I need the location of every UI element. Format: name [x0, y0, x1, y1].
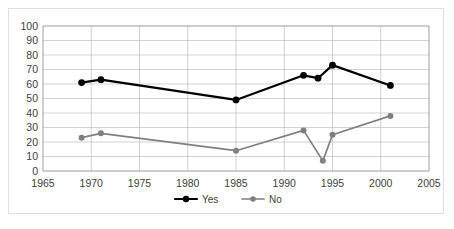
y-tick-label: 0 — [32, 165, 38, 177]
data-point-yes[interactable] — [98, 76, 105, 83]
x-tick-label: 1965 — [31, 177, 55, 189]
data-point-no[interactable] — [301, 127, 307, 133]
legend-label-yes[interactable]: Yes — [202, 194, 218, 205]
legend-marker-dot-no — [250, 196, 256, 202]
line-chart-plot: 0102030405060708090100196519701975198019… — [9, 9, 443, 213]
legend-label-no[interactable]: No — [269, 194, 282, 205]
data-point-no[interactable] — [320, 158, 326, 164]
data-point-yes[interactable] — [315, 75, 322, 82]
x-tick-label: 2005 — [417, 177, 441, 189]
x-tick-label: 1980 — [176, 177, 200, 189]
y-tick-label: 90 — [26, 34, 38, 46]
x-tick-label: 1975 — [128, 177, 152, 189]
data-point-yes[interactable] — [233, 97, 240, 104]
data-point-no[interactable] — [330, 132, 336, 138]
x-tick-label: 2000 — [369, 177, 393, 189]
y-tick-label: 60 — [26, 78, 38, 90]
y-tick-label: 100 — [20, 20, 38, 32]
x-tick-label: 1990 — [273, 177, 297, 189]
data-point-no[interactable] — [387, 113, 393, 119]
x-tick-label: 1970 — [80, 177, 104, 189]
data-point-yes[interactable] — [387, 82, 394, 89]
y-tick-label: 50 — [26, 92, 38, 104]
y-tick-label: 10 — [26, 150, 38, 162]
y-tick-label: 80 — [26, 49, 38, 61]
data-point-no[interactable] — [233, 148, 239, 154]
y-tick-label: 70 — [26, 63, 38, 75]
data-point-yes[interactable] — [329, 62, 336, 69]
x-tick-label: 1985 — [224, 177, 248, 189]
legend-marker-dot-yes — [183, 196, 189, 202]
data-point-yes[interactable] — [78, 79, 85, 86]
y-tick-label: 20 — [26, 136, 38, 148]
chart-container: 0102030405060708090100196519701975198019… — [8, 8, 444, 214]
x-tick-label: 1995 — [321, 177, 345, 189]
data-point-yes[interactable] — [300, 72, 307, 79]
data-point-no[interactable] — [98, 130, 104, 136]
y-tick-label: 40 — [26, 107, 38, 119]
y-tick-label: 30 — [26, 121, 38, 133]
data-point-no[interactable] — [79, 135, 85, 141]
